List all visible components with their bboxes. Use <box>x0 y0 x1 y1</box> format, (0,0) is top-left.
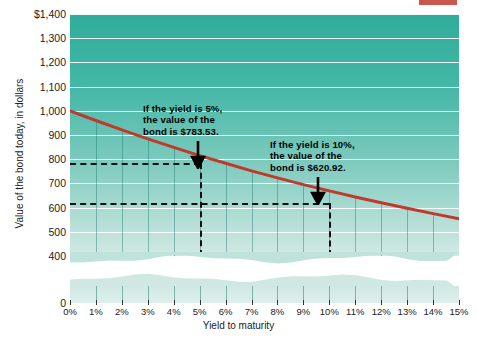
x-tick-15pct <box>459 300 460 305</box>
arrow-down-icon-yield-10 <box>310 177 326 205</box>
x-tick-label-9pct: 9% <box>297 306 311 317</box>
annotation-yield-10-line1: If the yield is 10%, <box>270 139 355 150</box>
x-tick-label-4pct: 4% <box>167 306 181 317</box>
x-tick-10pct <box>329 300 330 305</box>
y-tick-label-600: 600 <box>48 202 66 214</box>
x-tick-13pct <box>407 300 408 305</box>
x-tick-label-15pct: 15% <box>449 306 468 317</box>
x-tick-9pct <box>303 300 304 305</box>
dash-horizontal-5pct <box>70 163 200 165</box>
x-tick-2pct <box>122 300 123 305</box>
x-tick-label-11pct: 11% <box>346 306 364 317</box>
y-tick-label-800: 800 <box>48 153 66 165</box>
x-tick-4pct <box>174 300 175 305</box>
x-axis-title: Yield to maturity <box>0 320 477 331</box>
bond-value-chart: $1,4001,3001,2001,1001,00090080070060050… <box>0 0 477 339</box>
x-tick-label-2pct: 2% <box>115 306 129 317</box>
annotation-yield-5-line1: If the yield is 5%, <box>143 103 222 114</box>
arrow-down-icon-yield-5 <box>190 141 206 169</box>
y-tick-label-700: 700 <box>48 177 66 189</box>
dash-vertical-5pct <box>200 163 202 256</box>
dash-horizontal-10pct <box>70 203 329 205</box>
x-tick-label-10pct: 10% <box>320 306 339 317</box>
x-tick-0pct <box>70 300 71 305</box>
x-tick-3pct <box>148 300 149 305</box>
x-tick-label-14pct: 14% <box>424 306 443 317</box>
y-tick-label-400: 400 <box>48 250 66 262</box>
x-tick-1pct <box>96 300 97 305</box>
x-tick-12pct <box>381 300 382 305</box>
zero-baseline-strip <box>70 286 459 303</box>
annotation-yield-5-line3: bond is $783.53. <box>143 126 222 137</box>
annotation-yield-5-line2: the value of the <box>143 114 222 125</box>
annotation-yield-10-line3: bond is $620.92. <box>270 162 355 173</box>
dash-vertical-10pct <box>329 203 331 256</box>
y-tick-label-1200: 1,200 <box>40 56 66 68</box>
x-tick-8pct <box>277 300 278 305</box>
x-tick-label-5pct: 5% <box>193 306 207 317</box>
x-tick-label-6pct: 6% <box>219 306 233 317</box>
annotation-yield-5: If the yield is 5%, the value of the bon… <box>143 103 222 137</box>
y-tick-label-1400: $1,400 <box>34 8 66 20</box>
x-tick-7pct <box>252 300 253 305</box>
y-axis-tick-labels: $1,4001,3001,2001,1001,00090080070060050… <box>0 0 66 339</box>
x-tick-6pct <box>226 300 227 305</box>
x-tick-label-12pct: 12% <box>372 306 391 317</box>
x-tick-label-3pct: 3% <box>141 306 155 317</box>
annotation-yield-10-line2: the value of the <box>270 150 355 161</box>
x-tick-label-0pct: 0% <box>63 306 77 317</box>
x-tick-label-1pct: 1% <box>89 306 103 317</box>
y-tick-label-1300: 1,300 <box>40 32 66 44</box>
annotation-yield-10: If the yield is 10%, the value of the bo… <box>270 139 355 173</box>
x-tick-label-7pct: 7% <box>245 306 259 317</box>
x-tick-label-13pct: 13% <box>398 306 417 317</box>
y-tick-label-1000: 1,000 <box>40 105 66 117</box>
y-tick-label-500: 500 <box>48 226 66 238</box>
x-tick-label-8pct: 8% <box>271 306 285 317</box>
x-tick-11pct <box>355 300 356 305</box>
bond-value-curve <box>70 14 459 256</box>
y-axis-title: Value of the bond today, in dollars <box>14 39 25 269</box>
cropped-red-artifact <box>419 0 457 5</box>
plot-area <box>70 14 459 256</box>
x-tick-5pct <box>200 300 201 305</box>
x-tick-14pct <box>433 300 434 305</box>
axis-break-band <box>70 252 459 290</box>
y-tick-label-1100: 1,100 <box>40 81 66 93</box>
y-tick-label-900: 900 <box>48 129 66 141</box>
